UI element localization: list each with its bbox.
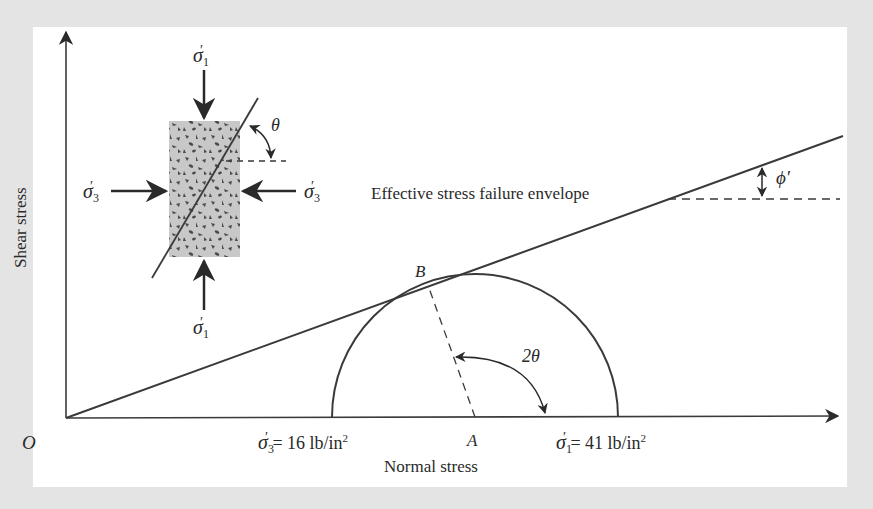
- x-axis-label: Normal stress: [384, 458, 478, 475]
- y-axis-label: Shear stress: [12, 187, 29, 268]
- mohr-diagram: [0, 0, 873, 509]
- phi-prime-label: ϕ′: [776, 168, 790, 187]
- theta-arc: [250, 126, 271, 158]
- envelope-label: Effective stress failure envelope: [371, 185, 589, 202]
- sigma1-value-label: σ1′ = 41 lb/in2: [556, 431, 646, 455]
- right-load-label: σ3′: [304, 180, 314, 204]
- two-theta-label: 2θ: [522, 347, 540, 365]
- top-load-label: σ1′: [193, 44, 203, 68]
- x-axis: [66, 416, 838, 418]
- mohr-circle: [332, 274, 618, 417]
- left-load-label: σ3′: [83, 180, 93, 204]
- radius-ab-dashed: [429, 288, 475, 417]
- bottom-load-label: σ1′: [193, 316, 203, 340]
- origin-label: O: [22, 433, 36, 452]
- theta-label: θ: [271, 116, 280, 134]
- point-b-label: B: [415, 263, 425, 280]
- sigma3-value-label: σ3′ = 16 lb/in2: [258, 431, 348, 455]
- point-a-label: A: [467, 432, 477, 449]
